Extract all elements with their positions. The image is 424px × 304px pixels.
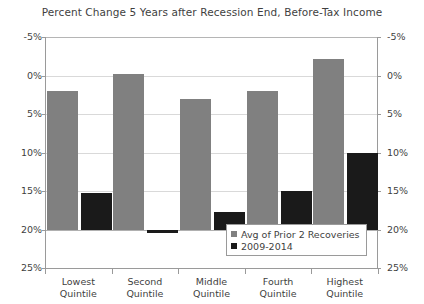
y-tick-right-25 <box>377 37 381 38</box>
chart-legend: Avg of Prior 2 Recoveries2009-2014 <box>226 224 367 256</box>
y-tick-right-15 <box>377 114 381 115</box>
legend-swatch-icon-2 <box>231 243 237 249</box>
y-axis-label-right-5: 15% <box>387 186 408 196</box>
y-axis-label-right-15: 5% <box>387 109 402 119</box>
y-tick-right-20 <box>377 76 381 77</box>
gridline-25 <box>46 37 379 38</box>
x-axis-label-middle-quintile: MiddleQuintile <box>178 276 245 299</box>
x-axis-tick-0 <box>45 268 46 274</box>
x-axis-tick-3 <box>245 268 246 274</box>
x-axis-label-highest-quintile: HighestQuintile <box>311 276 378 299</box>
bar-lowest-quintile-series-1 <box>47 91 78 230</box>
y-tick-left-20 <box>42 76 46 77</box>
x-axis-tick-5 <box>378 268 379 274</box>
legend-swatch-icon-1 <box>231 231 237 237</box>
bar-fourth-quintile-series-1 <box>247 91 278 230</box>
x-axis-label-fourth-quintile: FourthQuintile <box>245 276 312 299</box>
x-axis-label-line: Second <box>112 276 179 288</box>
x-axis-label-lowest-quintile: LowestQuintile <box>45 276 112 299</box>
y-axis-label-left-0: 20% <box>21 225 42 235</box>
y-axis-label-right-20: 0% <box>387 71 402 81</box>
y-axis-label-left-5: 15% <box>21 186 42 196</box>
x-axis-label-line: Fourth <box>245 276 312 288</box>
bar-second-quintile-series-2 <box>147 230 178 234</box>
bar-lowest-quintile-series-2 <box>81 193 112 230</box>
x-axis-tick-2 <box>178 268 179 274</box>
bar-highest-quintile-series-2 <box>347 153 378 229</box>
legend-item-1[interactable]: Avg of Prior 2 Recoveries <box>231 228 360 240</box>
y-axis-label-right-0: 20% <box>387 225 408 235</box>
y-axis-label-left-10: 10% <box>21 148 42 158</box>
x-axis-label-second-quintile: SecondQuintile <box>112 276 179 299</box>
legend-item-2[interactable]: 2009-2014 <box>231 240 360 252</box>
y-axis-label-left-15: 5% <box>27 109 42 119</box>
y-axis-label-left--5: 25% <box>21 263 42 273</box>
y-axis-label-left-25: -5% <box>24 32 43 42</box>
y-tick-left-15 <box>42 114 46 115</box>
y-tick-right-0 <box>377 230 381 231</box>
gridline--5 <box>46 268 379 269</box>
x-axis-label-line: Quintile <box>245 288 312 300</box>
y-axis-label-left-20: 0% <box>27 71 42 81</box>
x-axis-label-line: Middle <box>178 276 245 288</box>
legend-label-2: 2009-2014 <box>241 241 293 252</box>
y-tick-left-10 <box>42 153 46 154</box>
y-tick-left-25 <box>42 37 46 38</box>
x-axis-tick-4 <box>311 268 312 274</box>
bar-second-quintile-series-1 <box>113 74 144 230</box>
chart-container: Percent Change 5 Years after Recession E… <box>0 0 424 304</box>
x-axis-tick-1 <box>112 268 113 274</box>
x-axis-label-line: Quintile <box>311 288 378 300</box>
x-axis-label-line: Quintile <box>45 288 112 300</box>
bar-highest-quintile-series-1 <box>313 59 344 229</box>
x-axis-label-line: Quintile <box>178 288 245 300</box>
y-tick-left-0 <box>42 230 46 231</box>
y-axis-label-right--5: 25% <box>387 263 408 273</box>
x-axis-label-line: Quintile <box>112 288 179 300</box>
legend-label-1: Avg of Prior 2 Recoveries <box>241 229 360 240</box>
y-axis-label-right-25: -5% <box>387 32 406 42</box>
x-axis-label-line: Highest <box>311 276 378 288</box>
x-axis-label-line: Lowest <box>45 276 112 288</box>
y-axis-label-right-10: 10% <box>387 148 408 158</box>
y-tick-left-5 <box>42 191 46 192</box>
bar-middle-quintile-series-1 <box>180 99 211 230</box>
chart-title: Percent Change 5 Years after Recession E… <box>0 6 424 18</box>
